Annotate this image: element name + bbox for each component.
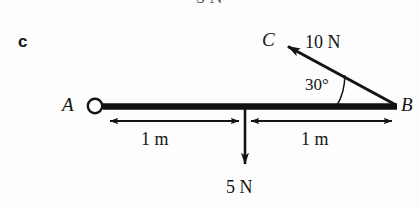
dimension-label-left-1m: 1 m xyxy=(141,130,169,148)
clipped-top-force-label: 5 N xyxy=(196,0,223,6)
support-circle-at-a xyxy=(88,99,102,113)
dimension-label-right-1m: 1 m xyxy=(301,130,329,148)
force-label-10n: 10 N xyxy=(305,33,341,51)
force-label-5n: 5 N xyxy=(226,178,253,196)
point-label-a: A xyxy=(62,95,74,114)
angle-label-30deg: 30° xyxy=(305,76,329,93)
point-label-c: C xyxy=(262,30,275,49)
beam-diagram-figure: 5 N c A B C 10 N 30° 1 m 1 m 5 N xyxy=(0,0,419,209)
point-label-b: B xyxy=(401,95,413,114)
angle-arc-30deg xyxy=(337,75,345,105)
part-label-c: c xyxy=(18,33,27,50)
